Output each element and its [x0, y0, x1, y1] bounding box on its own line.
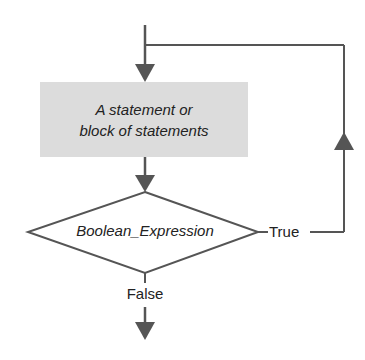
true-label: True [269, 223, 299, 240]
decision-label: Boolean_Expression [58, 222, 232, 239]
statement-line-1: A statement or [96, 99, 193, 120]
entry-arrow [135, 25, 155, 82]
statement-line-2: block of statements [79, 120, 208, 141]
flowchart-canvas [0, 0, 365, 360]
exit-arrow [135, 307, 155, 340]
box-to-decision-arrow [135, 157, 155, 192]
statement-box: A statement or block of statements [40, 82, 248, 157]
loop-up-arrowhead [334, 132, 354, 150]
false-label: False [124, 285, 166, 302]
